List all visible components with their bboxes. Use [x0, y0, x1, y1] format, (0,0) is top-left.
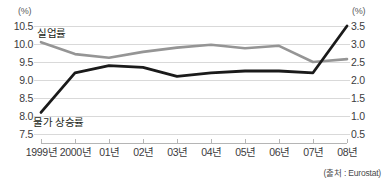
x-axis-ticks — [42, 139, 348, 143]
unemployment-inflation-line-chart: (%) (%) 10.5 10.0 9.5 9.0 8.5 8.0 7.5 3.… — [0, 0, 386, 188]
series-line-inflation — [41, 26, 347, 112]
series-label-inflation: 물가 상승률 — [33, 114, 84, 129]
x-axis-tick-08: 08년 — [322, 147, 373, 158]
source-note: (출처 : Eurostat) — [324, 166, 381, 178]
series-label-unemployment: 실업률 — [37, 25, 66, 40]
series-line-unemployment — [41, 42, 347, 62]
